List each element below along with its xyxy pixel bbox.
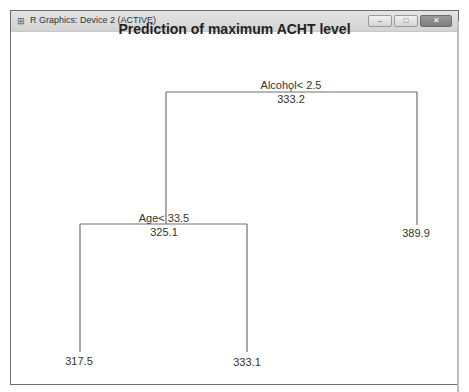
age-value-label: 325.1 [150,226,178,238]
leaf-value-label: 333.1 [233,356,261,368]
root-value-label: 333.2 [277,93,305,105]
leaf-value-label: 317.5 [65,355,93,367]
window-right-edge [457,21,459,392]
leaf-value-label: 389.9 [402,227,430,239]
age-split-label: Age< 33.5 [139,212,189,224]
regression-tree [0,0,469,392]
root-split-label: Alcohol< 2.5 [261,79,322,91]
